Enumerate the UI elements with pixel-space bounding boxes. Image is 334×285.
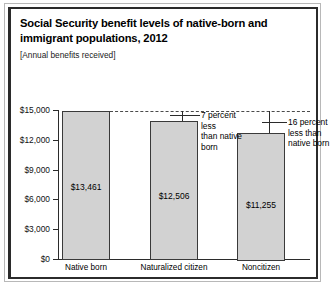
y-axis-label-12000: $12,000 xyxy=(20,135,50,145)
annotation-naturalized-line-3: born xyxy=(201,142,253,153)
annotation-naturalized-line-1: 7 percent less xyxy=(201,110,253,131)
y-axis-label-0: $0 xyxy=(41,254,50,264)
y-axis-label-15000: $15,000 xyxy=(20,105,50,115)
category-label-noncitizen: Noncitizen xyxy=(242,263,280,272)
y-tick-3000 xyxy=(53,229,58,230)
leader-line-naturalized-horizontal xyxy=(170,115,200,116)
y-axis-label-6000: $6,000 xyxy=(24,194,50,204)
bar-value-native-born: $13,461 xyxy=(71,182,102,192)
y-tick-12000 xyxy=(53,140,58,141)
bar-value-noncitizen: $11,255 xyxy=(246,200,276,210)
annotation-noncitizen-line-1: 16 percent xyxy=(288,117,334,128)
y-tick-15000 xyxy=(53,110,58,111)
category-label-native-born: Native born xyxy=(65,263,107,272)
annotation-noncitizen: 16 percent less than native born xyxy=(288,117,334,149)
y-axis-line xyxy=(58,110,59,260)
y-tick-0 xyxy=(53,259,58,260)
y-axis-label-9000: $9,000 xyxy=(24,165,50,175)
leader-line-naturalized-vertical xyxy=(182,111,183,121)
y-axis-label-3000: $3,000 xyxy=(24,224,50,234)
category-label-naturalized-citizen: Naturalized citizen xyxy=(141,263,208,272)
annotation-noncitizen-line-3: native born xyxy=(288,138,334,149)
bar-value-naturalized-citizen: $12,506 xyxy=(159,191,190,201)
leader-line-noncitizen-horizontal xyxy=(262,122,287,123)
annotation-noncitizen-line-2: less than xyxy=(288,128,334,139)
y-tick-6000 xyxy=(53,199,58,200)
y-tick-9000 xyxy=(53,170,58,171)
annotation-naturalized-line-2: than native xyxy=(201,131,253,142)
annotation-naturalized-citizen: 7 percent less than native born xyxy=(201,110,253,152)
